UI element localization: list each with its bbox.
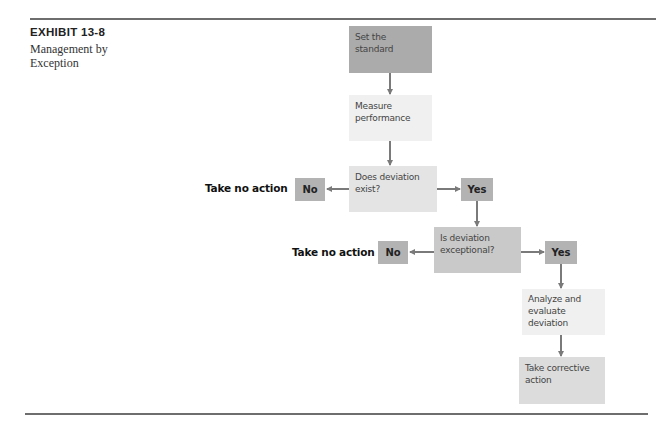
take-no-action-label-2: Take no action <box>292 246 375 258</box>
no-tag-1: No <box>295 178 325 201</box>
no-tag-2: No <box>378 241 408 264</box>
yes-tag-1: Yes <box>461 178 493 201</box>
step-measure-performance: Measure performance <box>349 95 432 141</box>
decision-deviation-exceptional: Is deviation exceptional? <box>434 227 521 273</box>
take-no-action-label-1: Take no action <box>205 182 288 194</box>
decision-exists-text: Does deviation exist? <box>355 171 431 195</box>
yes-tag-2: Yes <box>545 241 577 264</box>
step-corrective-text: Take corrective action <box>525 362 601 386</box>
step-measure-text: Measure performance <box>355 100 425 124</box>
step-set-standard-text: Set the standard <box>355 31 407 55</box>
step-take-corrective-action: Take corrective action <box>519 357 605 404</box>
step-analyze-text: Analyze and evaluate deviation <box>528 293 590 329</box>
decision-deviation-exists: Does deviation exist? <box>349 166 437 212</box>
step-set-standard: Set the standard <box>349 26 432 73</box>
decision-exceptional-text: Is deviation exceptional? <box>440 232 516 256</box>
step-analyze-evaluate: Analyze and evaluate deviation <box>522 289 605 335</box>
